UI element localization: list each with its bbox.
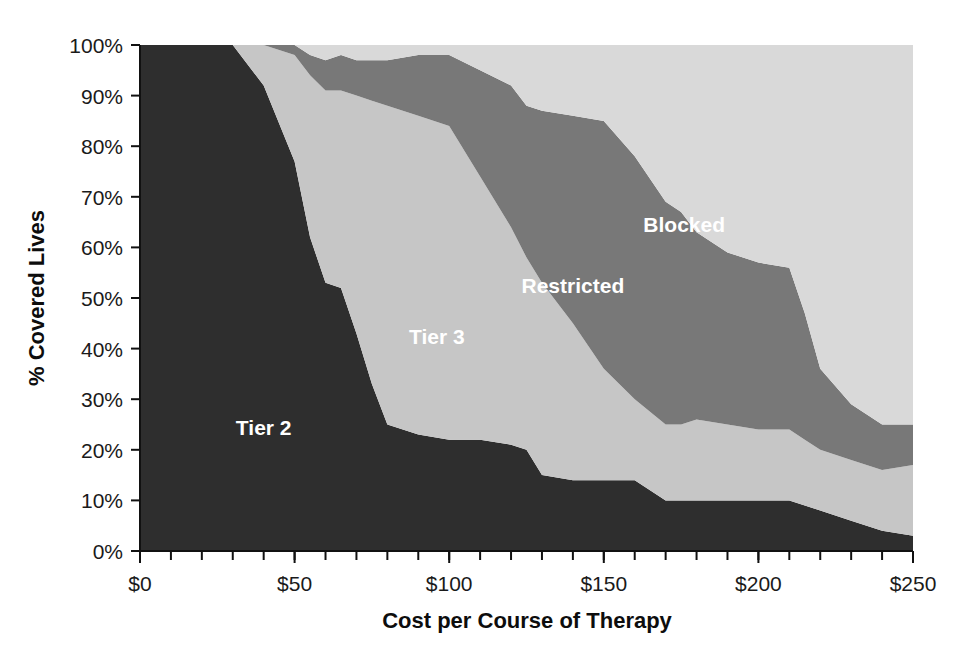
x-tick-label: $250 — [890, 572, 937, 595]
y-tick-label: 100% — [69, 34, 123, 57]
series-label-tier-3: Tier 3 — [409, 325, 465, 348]
series-label-blocked: Blocked — [643, 213, 725, 236]
x-tick-label: $0 — [128, 572, 151, 595]
y-tick-label: 60% — [81, 236, 123, 259]
y-axis-title: % Covered Lives — [24, 210, 49, 386]
x-tick-label: $100 — [426, 572, 473, 595]
x-tick-label: $150 — [580, 572, 627, 595]
y-tick-label: 40% — [81, 338, 123, 361]
x-axis-title: Cost per Course of Therapy — [382, 608, 672, 633]
y-tick-label: 0% — [93, 540, 123, 563]
y-tick-label: 50% — [81, 287, 123, 310]
x-tick-label: $200 — [735, 572, 782, 595]
y-tick-label: 20% — [81, 439, 123, 462]
y-tick-label: 10% — [81, 489, 123, 512]
y-tick-label: 80% — [81, 135, 123, 158]
series-label-restricted: Restricted — [522, 274, 625, 297]
y-tick-label: 90% — [81, 85, 123, 108]
area-series-group — [140, 45, 913, 551]
x-tick-label: $50 — [277, 572, 312, 595]
y-tick-label: 30% — [81, 388, 123, 411]
chart-container: 0%10%20%30%40%50%60%70%80%90%100% $0$50$… — [0, 0, 974, 658]
series-label-tier-2: Tier 2 — [236, 416, 292, 439]
y-tick-label: 70% — [81, 186, 123, 209]
stacked-area-chart: 0%10%20%30%40%50%60%70%80%90%100% $0$50$… — [0, 0, 974, 658]
